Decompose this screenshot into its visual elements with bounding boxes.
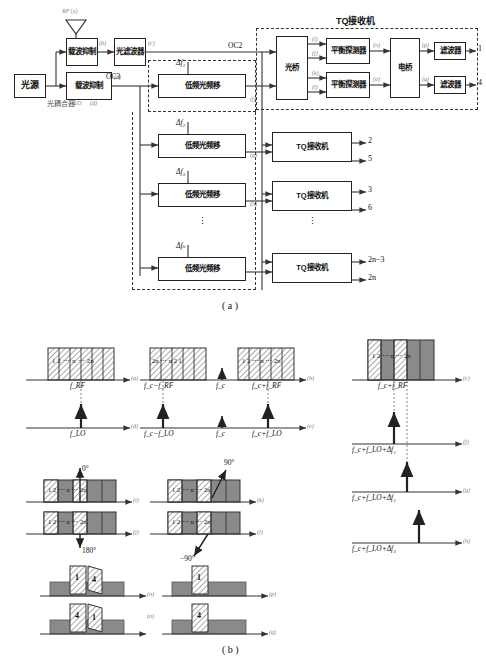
block-filter-2[interactable]: 滤波器 (434, 76, 466, 94)
panel-c-channels: 1 2 ⋯ n ⋯ 2n (372, 352, 410, 360)
panel-e-tag: (e) (307, 423, 314, 429)
block-freq-shift-2[interactable]: 低频光频移 (158, 134, 246, 158)
block-filter-1[interactable]: 滤波器 (434, 42, 466, 60)
tag-p: (p) (422, 42, 429, 48)
output-3: 3 (368, 185, 372, 194)
label-lo-port: LO (74, 100, 82, 106)
panel-a-axis-label: f_RF (70, 381, 85, 390)
block-tq-receiver-3[interactable]: TQ接收机 (272, 181, 352, 211)
block-freq-shift-n[interactable]: 低频光频移 (158, 257, 246, 281)
block-freq-shift-3[interactable]: 低频光频移 (158, 183, 246, 207)
panel-f-axis-label: f_c+f_LO+Δf₁ (352, 445, 396, 454)
panel-b-right-label: f_c+f_RF (252, 381, 281, 390)
output-2n: 2n (368, 273, 376, 282)
panel-q-front-label: 4 (197, 611, 201, 620)
spectrum-panel-i (26, 468, 132, 502)
spectrum-panel-q (162, 604, 268, 634)
caption-b: ( b ) (222, 644, 239, 655)
spectrum-panel-p (162, 566, 268, 596)
tag-j: (j) (312, 50, 318, 56)
panel-l-phase: −90° (180, 554, 195, 563)
panel-j-tag: (j) (133, 529, 139, 535)
tag-l: (l) (312, 84, 318, 90)
label-delta-f3: Δf₃ (176, 167, 185, 176)
panel-q-tag: (q) (269, 629, 276, 635)
spectrum-panel-e (140, 404, 306, 428)
panel-d-axis-label: f_LO (70, 429, 85, 438)
panel-o-front-label: 4 (75, 611, 79, 620)
output-2n-3: 2n−3 (368, 255, 385, 264)
label-oc2: OC2 (228, 41, 242, 50)
label-oc3: OC3 (106, 72, 120, 81)
output-5: 5 (368, 154, 372, 163)
block-balanced-detector-1[interactable]: 平衡探测器 (326, 38, 370, 64)
title-tq-receiver: TQ接收机 (336, 14, 376, 27)
panel-l-tag: (l) (257, 529, 263, 535)
block-freq-shift-1[interactable]: 低频光频移 (158, 74, 246, 98)
label-delta-f1: Δf₁ (176, 58, 185, 67)
panel-e-right-label: f_c+f_LO (252, 429, 282, 438)
panel-l-channels: 1 2 ⋯ n ⋯ 2n (172, 518, 210, 526)
panel-b-left-label: f_c−f_RF (144, 381, 173, 390)
block-light-source[interactable]: 光源 (14, 74, 46, 98)
panel-h-tag: (h) (463, 538, 470, 544)
tag-f: (f) (250, 96, 256, 102)
output-6: 6 (368, 203, 372, 212)
panel-b-center-label: f_c (216, 381, 225, 390)
panel-b-tag: (b) (307, 375, 314, 381)
tag-h: (h) (250, 201, 257, 207)
output-2: 2 (368, 136, 372, 145)
panel-d-tag: (d) (131, 423, 138, 429)
spectrum-panel-d (26, 404, 130, 428)
tag-o: (o) (373, 76, 380, 82)
panel-c-axis-label: f_c+f_RF (378, 381, 407, 390)
label-rf-port: RF (a) (62, 8, 78, 14)
panel-p-front-label: 1 (197, 573, 201, 582)
block-carrier-suppression-rf[interactable]: 载波抑制 (66, 38, 98, 66)
tag-k: (k) (312, 70, 319, 76)
dots-receivers: ⋮ (308, 216, 317, 226)
panel-n-tag: (n) (147, 591, 154, 597)
spectrum-panel-h (352, 510, 462, 543)
tag-c: (c) (148, 40, 155, 46)
output-1: 1 (478, 44, 482, 53)
block-optical-bridge[interactable]: 光桥 (276, 36, 308, 100)
panel-a-tag: (a) (131, 375, 138, 381)
tag-i: (i) (312, 36, 318, 42)
panel-g-tag: (g) (463, 487, 470, 493)
panel-e-left-label: f_c−f_LO (144, 429, 174, 438)
label-delta-f2: Δf₂ (176, 118, 185, 127)
output-4: 4 (478, 78, 482, 87)
panel-k-channels: 1 2 ⋯ n ⋯ 2n (172, 486, 210, 494)
panel-f-tag: (f) (463, 439, 469, 445)
panel-k-phase: 90° (224, 458, 235, 467)
panel-i-channels: 1 2 ⋯ n ⋯ 2n (48, 486, 86, 494)
tag-g: (g) (250, 152, 257, 158)
panel-o-tag: (o) (147, 613, 154, 619)
panel-j-phase: 180° (82, 546, 96, 555)
block-optical-filter[interactable]: 光滤波器 (114, 38, 146, 66)
label-coupler: 光耦合器 (47, 98, 75, 108)
dots-shifters: ⋮ (198, 216, 207, 226)
caption-a: ( a ) (222, 300, 238, 311)
label-delta-fn: Δfₙ (176, 241, 186, 250)
block-tq-receiver-2[interactable]: TQ接收机 (272, 132, 352, 162)
panel-g-axis-label: f_c+f_LO+Δf₂ (352, 493, 396, 502)
block-balanced-detector-2[interactable]: 平衡探测器 (326, 72, 370, 98)
panel-o-back-label: 1 (92, 613, 96, 622)
panel-n-front-label: 1 (75, 573, 79, 582)
figure-root: 光源 载波抑制 载波抑制 光滤波器 低频光频移 低频光频移 低频光频移 低频光频… (0, 0, 486, 667)
panel-h-axis-label: f_c+f_LO+Δf₃ (352, 544, 396, 553)
tag-q: (q) (422, 76, 429, 82)
block-tq-receiver-n[interactable]: TQ接收机 (272, 253, 352, 283)
panel-b-left-channels: 2n ⋯ n 2 1 (152, 357, 182, 365)
tag-n: (n) (373, 42, 380, 48)
tag-d: (d) (90, 100, 97, 106)
panel-a-channels: 1 2 ⋯ n ⋯ 2n (52, 357, 94, 365)
panel-k-tag: (k) (257, 497, 264, 503)
tag-b: (b) (99, 40, 106, 46)
spectrum-panel-f (352, 412, 462, 444)
panel-j-channels: 1 2 ⋯ n ⋯ 2n (48, 518, 86, 526)
panel-i-tag: (i) (133, 497, 139, 503)
block-electrical-bridge[interactable]: 电桥 (390, 38, 420, 98)
